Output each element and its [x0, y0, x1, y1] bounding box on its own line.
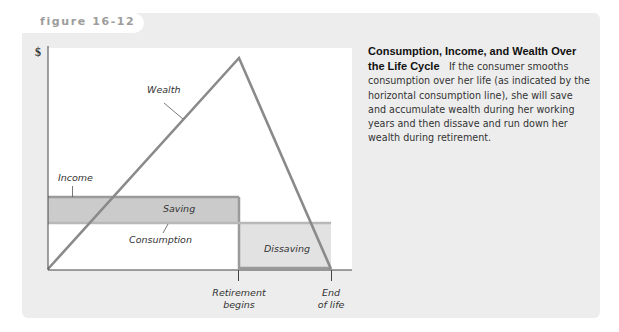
retirement-begins-label: Retirement begins [210, 287, 268, 311]
consumption-leader [163, 224, 168, 233]
saving-label: Saving [163, 203, 195, 214]
wealth-leader [164, 103, 183, 119]
wealth-label: Wealth [147, 84, 180, 95]
consumption-label: Consumption [129, 234, 192, 245]
end-label-line2: of life [310, 299, 352, 311]
income-label: Income [58, 172, 93, 183]
dissaving-label: Dissaving [264, 243, 310, 254]
end-of-life-label: End of life [310, 287, 352, 311]
caption-body: If the consumer smooths consumption over… [368, 61, 590, 143]
saving-region [48, 197, 239, 223]
retirement-label-line1: Retirement [210, 287, 268, 299]
retirement-label-line2: begins [210, 299, 268, 311]
figure-caption: Consumption, Income, and Wealth Over the… [368, 44, 590, 145]
end-label-line1: End [310, 287, 352, 299]
